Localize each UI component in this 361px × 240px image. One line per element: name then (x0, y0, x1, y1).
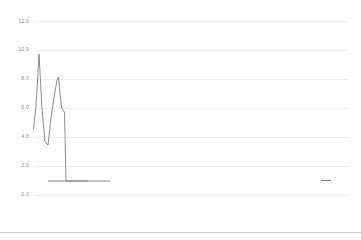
ytick-label-0: 0.0 (3, 192, 29, 197)
ytick-label-4: 4.0 (3, 134, 29, 139)
ytick-label-2: 2.0 (3, 163, 29, 168)
data-series-1 (34, 54, 332, 181)
ytick-label-12: 12.0 (3, 19, 29, 24)
ytick-label-6: 6.0 (3, 105, 29, 110)
gridlines (34, 22, 348, 196)
ytick-label-10: 10.0 (3, 47, 29, 52)
chart-container: 12.0 10.0 8.0 6.0 4.0 2.0 0.0 (0, 0, 361, 240)
chart-plot-area (0, 0, 361, 240)
chart-bottom-border (0, 232, 361, 233)
ytick-label-8: 8.0 (3, 76, 29, 81)
